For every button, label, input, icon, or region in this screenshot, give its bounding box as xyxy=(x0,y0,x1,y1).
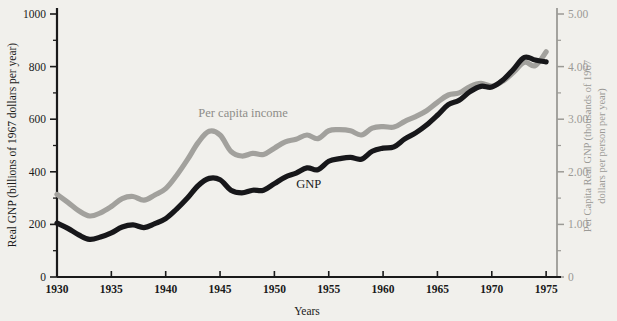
x-tick-label: 1975 xyxy=(535,283,558,295)
x-tick-label: 1930 xyxy=(46,283,69,295)
x-tick-label: 1945 xyxy=(209,283,232,295)
x-axis-title: Years xyxy=(294,305,320,317)
x-tick-label: 1970 xyxy=(480,283,503,295)
y-tick-label-left: 0 xyxy=(40,271,46,283)
x-tick-label: 1950 xyxy=(263,283,286,295)
y-axis-right-title-line1: Per Capita Real GNP (thousands of 1967 xyxy=(582,60,594,232)
x-tick-label: 1965 xyxy=(426,283,449,295)
y-tick-label-left: 400 xyxy=(29,166,47,178)
y-axis-right-title-line2: dollars per person per year) xyxy=(596,88,608,204)
per-capita-income-label: Per capita income xyxy=(198,106,288,120)
x-tick-label: 1940 xyxy=(154,283,177,295)
y-axis-title: Real GNP (billions of 1967 dollars per y… xyxy=(6,43,19,247)
gnp-chart: 02004006008001000 01.002.003.004.005.00 … xyxy=(0,0,617,321)
x-tick-label: 1960 xyxy=(372,283,395,295)
y-tick-label-left: 200 xyxy=(29,218,47,230)
x-tick-label: 1935 xyxy=(100,283,123,295)
x-tick-label: 1955 xyxy=(317,283,340,295)
gnp-label: GNP xyxy=(296,177,321,191)
y-tick-label-left: 800 xyxy=(29,61,47,73)
y-tick-label-left: 600 xyxy=(29,113,47,125)
y-tick-label-left: 1000 xyxy=(23,8,46,20)
y-tick-label-right: 0 xyxy=(568,271,574,283)
y-tick-label-right: 5.00 xyxy=(568,8,588,20)
chart-canvas: 02004006008001000 01.002.003.004.005.00 … xyxy=(0,0,617,321)
chart-background xyxy=(0,0,617,321)
